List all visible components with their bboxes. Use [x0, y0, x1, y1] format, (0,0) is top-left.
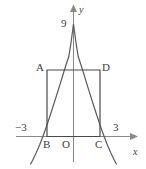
point-b-label: B	[43, 139, 50, 150]
origin-label: O	[62, 139, 70, 150]
y-axis-label: y	[79, 5, 83, 15]
figure-canvas	[0, 0, 146, 169]
point-d-label: D	[102, 62, 110, 73]
point-c-label: C	[95, 139, 102, 150]
vertex-value-label: 9	[61, 18, 67, 29]
x-axis-label: x	[133, 147, 137, 157]
right-root-label: 3	[113, 122, 119, 133]
point-a-label: A	[36, 62, 44, 73]
y-axis-arrow	[70, 5, 77, 13]
parabola-rectangle-figure: 9 y x −3 3 O A D B C	[0, 0, 146, 169]
left-root-label: −3	[15, 122, 27, 133]
x-axis-arrow	[130, 133, 138, 140]
